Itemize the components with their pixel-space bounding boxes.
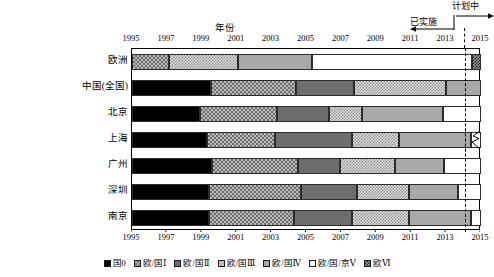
legend-swatch-ou1 [134, 260, 141, 267]
bar-segment-guo0 [132, 106, 200, 122]
bar-segment-ou5 [312, 54, 473, 70]
bar-segment-ou1 [132, 54, 169, 70]
bar-segment-ou1 [200, 106, 277, 122]
bar-row [132, 54, 481, 70]
bars-container [132, 49, 479, 229]
legend-label: 欧/国Ⅱ [183, 258, 209, 268]
legend-swatch-ou3 [218, 260, 225, 267]
bar-segment-ou4 [395, 158, 444, 174]
bar-row [132, 132, 481, 148]
x-tick-2011: 2011 [402, 33, 419, 44]
legend-swatch-guo0 [104, 260, 111, 267]
emission-standard-timeline-chart: 计划中 已实施 年份 19951997199920012003200520072… [0, 0, 494, 277]
y-category-label: 广州 [0, 158, 128, 170]
bar-segment-ou4 [238, 54, 311, 70]
bar-segment-guo0 [132, 184, 209, 200]
bar-segment-ou3 [354, 80, 446, 96]
bar-segment-ou3 [169, 54, 239, 70]
bar-row [132, 80, 481, 96]
legend-item: 欧/国Ⅱ [174, 258, 209, 268]
plot-area [131, 48, 480, 230]
bar-segment-ou3 [352, 132, 399, 148]
x-tick-2007: 2007 [332, 33, 349, 44]
bar-segment-ou5 [458, 184, 481, 200]
legend-item: 欧/国Ⅰ [134, 258, 167, 268]
x-tick-2013: 2013 [437, 33, 454, 44]
legend-item: 欧Ⅵ [364, 258, 391, 268]
bar-segment-ou1 [211, 80, 297, 96]
bar-segment-ou4 [446, 80, 481, 96]
legend-label: 欧/国/京Ⅴ [318, 258, 356, 268]
bar-row [132, 210, 481, 226]
x-axis-title: 年份 [0, 20, 494, 34]
implemented-planned-divider [465, 48, 466, 232]
bar-segment-ou6 [472, 54, 481, 70]
legend-swatch-ou2 [174, 260, 181, 267]
bar-row [132, 184, 481, 200]
bar-segment-ou2 [301, 184, 357, 200]
x-tick-2003: 2003 [262, 33, 279, 44]
bar-segment-guo0 [132, 210, 209, 226]
bar-segment-ou2 [277, 106, 329, 122]
bar-segment-ou1 [207, 132, 275, 148]
bar-segment-guo0 [132, 132, 207, 148]
bar-segment-ou5 [471, 210, 481, 226]
y-category-label: 欧洲 [0, 54, 128, 66]
bar-segment-ou2 [275, 132, 352, 148]
bar-segment-ou3 [357, 184, 409, 200]
bar-segment-ou3 [340, 158, 396, 174]
legend-item: 欧/国/京Ⅴ [309, 258, 356, 268]
x-tick-1995: 1995 [123, 33, 140, 44]
legend-swatch-ou4 [263, 260, 270, 267]
legend-swatch-ou5 [309, 260, 316, 267]
legend-swatch-ou6 [364, 260, 371, 267]
x-tick-1999: 1999 [192, 33, 209, 44]
bar-segment-ou4 [362, 106, 442, 122]
y-category-label: 深圳 [0, 184, 128, 196]
bar-segment-ou2 [294, 210, 352, 226]
y-category-label: 南京 [0, 210, 128, 222]
bar-segment-ou2 [298, 158, 340, 174]
bar-segment-ou5 [443, 106, 481, 122]
legend-label: 欧/国Ⅳ [272, 258, 301, 268]
bar-segment-ou5 [444, 158, 481, 174]
y-axis-category-labels: 欧洲中国(全国)北京上海广州深圳南京 [0, 48, 128, 230]
bar-segment-guo0 [132, 158, 212, 174]
chart-legend: 国0欧/国Ⅰ欧/国Ⅱ欧/国Ⅲ欧/国Ⅳ欧/国/京Ⅴ欧Ⅵ [0, 255, 494, 271]
bar-segment-ou1 [209, 210, 295, 226]
x-axis-title-text: 年份 [215, 23, 235, 33]
x-tick-1997: 1997 [157, 33, 174, 44]
bar-segment-ou4 [399, 132, 471, 148]
bar-row [132, 106, 481, 122]
y-category-label: 北京 [0, 106, 128, 118]
y-category-label: 中国(全国) [0, 80, 128, 92]
legend-item: 欧/国Ⅳ [263, 258, 301, 268]
bar-segment-ou2 [296, 80, 354, 96]
legend-label: 欧/国Ⅲ [227, 258, 256, 268]
axis-break-marker [469, 131, 481, 149]
legend-item: 国0 [104, 258, 126, 268]
bar-segment-ou1 [212, 158, 298, 174]
y-category-label: 上海 [0, 132, 128, 144]
bar-segment-ou3 [329, 106, 362, 122]
legend-label: 欧Ⅵ [373, 258, 391, 268]
legend-label: 欧/国Ⅰ [143, 258, 167, 268]
bar-segment-ou1 [209, 184, 301, 200]
x-tick-2005: 2005 [297, 33, 314, 44]
bar-segment-ou4 [409, 184, 458, 200]
bar-segment-ou4 [409, 210, 470, 226]
x-tick-2015: 2015 [472, 33, 489, 44]
divider-upper-stub [464, 28, 465, 48]
legend-item: 欧/国Ⅲ [218, 258, 256, 268]
x-tick-2009: 2009 [367, 33, 384, 44]
legend-label: 国0 [113, 258, 126, 268]
x-tick-2001: 2001 [227, 33, 244, 44]
bar-segment-ou3 [352, 210, 410, 226]
bar-segment-guo0 [132, 80, 211, 96]
bar-row [132, 158, 481, 174]
